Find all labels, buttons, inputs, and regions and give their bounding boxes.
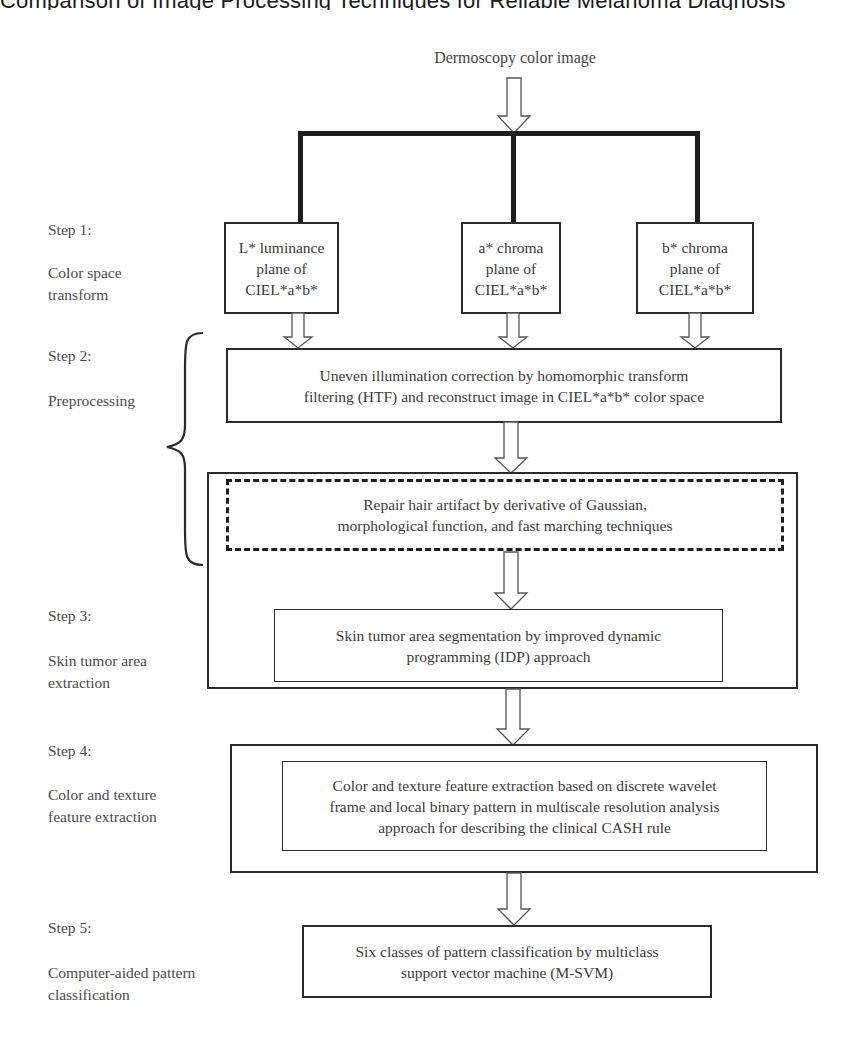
box-feat-line-1: Color and texture feature extraction bas…: [330, 775, 720, 796]
box-feature-extraction: Color and texture feature extraction bas…: [282, 761, 767, 851]
step-3-label: Step 3:: [48, 605, 92, 627]
box-a-line-2: plane of: [475, 258, 547, 279]
step-4-label: Step 4:: [48, 740, 92, 762]
down-arrow-icon: [496, 78, 532, 134]
box-a-chroma: a* chroma plane of CIEL*a*b*: [461, 222, 561, 314]
box-illum-line-1: Uneven illumination correction by homomo…: [304, 365, 704, 386]
box-hair-repair: Repair hair artifact by derivative of Ga…: [226, 479, 784, 551]
down-arrow-icon: [498, 313, 528, 349]
box-l-line-1: L* luminance: [239, 237, 325, 258]
box-seg-line-2: programming (IDP) approach: [336, 646, 661, 667]
step-5-name-line-1: Computer-aided pattern: [48, 962, 195, 984]
connector-left: [298, 131, 303, 223]
box-b-line-3: CIEL*a*b*: [659, 279, 731, 300]
box-feat-line-2: frame and local binary pattern in multis…: [330, 796, 720, 817]
box-b-line-2: plane of: [659, 258, 731, 279]
step-1-name-line-2: transform: [48, 284, 108, 306]
box-seg-line-1: Skin tumor area segmentation by improved…: [336, 625, 661, 646]
step-4-name-line-1: Color and texture: [48, 784, 156, 806]
input-label: Dermoscopy color image: [400, 48, 630, 68]
step-2-label: Step 2:: [48, 345, 92, 367]
connector-center: [511, 131, 516, 223]
split-bar: [298, 131, 700, 136]
box-illumination-correction: Uneven illumination correction by homomo…: [226, 348, 782, 423]
box-classification: Six classes of pattern classification by…: [302, 925, 712, 998]
box-a-line-3: CIEL*a*b*: [475, 279, 547, 300]
step-3-name-line-2: extraction: [48, 672, 110, 694]
step-1-name-line-1: Color space: [48, 262, 122, 284]
step-1-label: Step 1:: [48, 219, 92, 241]
brace-icon: [163, 330, 208, 570]
running-header: Comparison of Image Processing Technique…: [0, 0, 848, 10]
box-l-line-2: plane of: [239, 258, 325, 279]
box-b-chroma: b* chroma plane of CIEL*a*b*: [636, 222, 754, 314]
box-l-line-3: CIEL*a*b*: [239, 279, 325, 300]
down-arrow-icon: [494, 552, 528, 610]
step-3-name-line-1: Skin tumor area: [48, 650, 147, 672]
step-5-label: Step 5:: [48, 917, 92, 939]
step-2-name-line-1: Preprocessing: [48, 390, 135, 412]
step-5-name-line-2: classification: [48, 984, 130, 1006]
box-illum-line-2: filtering (HTF) and reconstruct image in…: [304, 386, 704, 407]
box-feat-line-3: approach for describing the clinical CAS…: [330, 817, 720, 838]
box-hair-line-1: Repair hair artifact by derivative of Ga…: [338, 494, 673, 515]
box-class-line-1: Six classes of pattern classification by…: [355, 941, 658, 962]
connector-right: [695, 131, 700, 223]
box-segmentation: Skin tumor area segmentation by improved…: [274, 609, 723, 682]
down-arrow-icon: [680, 313, 710, 349]
step-4-name-line-2: feature extraction: [48, 806, 157, 828]
box-hair-line-2: morphological function, and fast marchin…: [338, 515, 673, 536]
down-arrow-icon: [496, 689, 530, 746]
down-arrow-icon: [283, 313, 313, 349]
box-b-line-1: b* chroma: [659, 237, 731, 258]
box-a-line-1: a* chroma: [475, 237, 547, 258]
down-arrow-icon: [494, 422, 528, 474]
box-l-luminance: L* luminance plane of CIEL*a*b*: [224, 222, 339, 314]
down-arrow-icon: [497, 873, 531, 926]
box-class-line-2: support vector machine (M-SVM): [355, 962, 658, 983]
